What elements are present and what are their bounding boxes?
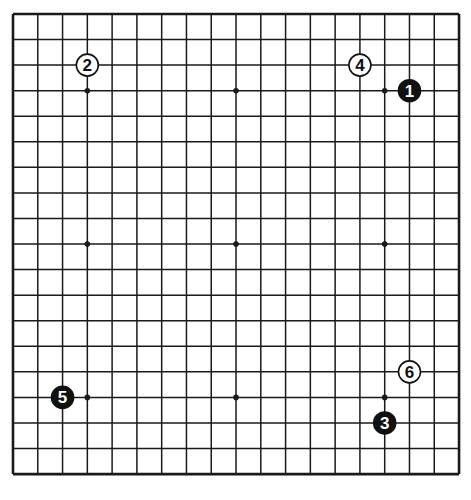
star-point xyxy=(233,88,239,94)
star-point xyxy=(85,241,91,247)
move-number: 1 xyxy=(405,82,414,101)
star-point xyxy=(233,241,239,247)
black-stone-5: 5 xyxy=(52,386,74,408)
white-stone-6: 6 xyxy=(398,361,420,383)
star-point xyxy=(85,395,91,401)
go-board: 123456 xyxy=(0,0,471,500)
star-point xyxy=(382,241,388,247)
move-number: 2 xyxy=(83,56,92,75)
move-number: 3 xyxy=(380,414,389,433)
black-stone-1: 1 xyxy=(398,80,420,102)
star-point xyxy=(85,88,91,94)
black-stone-3: 3 xyxy=(374,412,396,434)
star-point xyxy=(382,395,388,401)
white-stone-4: 4 xyxy=(349,54,371,76)
star-point xyxy=(233,395,239,401)
star-point xyxy=(382,88,388,94)
move-number: 6 xyxy=(405,363,414,382)
white-stone-2: 2 xyxy=(76,54,98,76)
move-number: 4 xyxy=(355,56,365,75)
move-number: 5 xyxy=(58,388,67,407)
